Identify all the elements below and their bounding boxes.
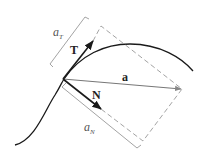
a-n-bracket [62,83,141,148]
a-n-label: aN [84,120,95,136]
path-curve [15,44,193,145]
tangential-normal-acceleration-diagram: T N a aT aN [0,0,204,159]
tangent-label: T [70,43,78,57]
acceleration-label: a [122,70,128,84]
normal-label: N [92,88,101,102]
a-t-label: aT [53,25,64,41]
projection-dashed-rectangle [93,26,182,141]
